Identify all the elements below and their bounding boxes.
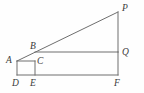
hypotenuse-A-to-P — [17, 12, 118, 61]
point-label-C: C — [37, 57, 43, 67]
point-label-B: B — [30, 42, 36, 52]
point-label-F: F — [114, 79, 120, 89]
point-label-A: A — [6, 56, 12, 66]
point-label-Q: Q — [122, 48, 129, 58]
point-label-P: P — [122, 4, 128, 14]
point-label-D: D — [12, 79, 19, 89]
geometry-figure: A B C D E F P Q — [0, 0, 144, 93]
point-label-E: E — [30, 79, 36, 89]
